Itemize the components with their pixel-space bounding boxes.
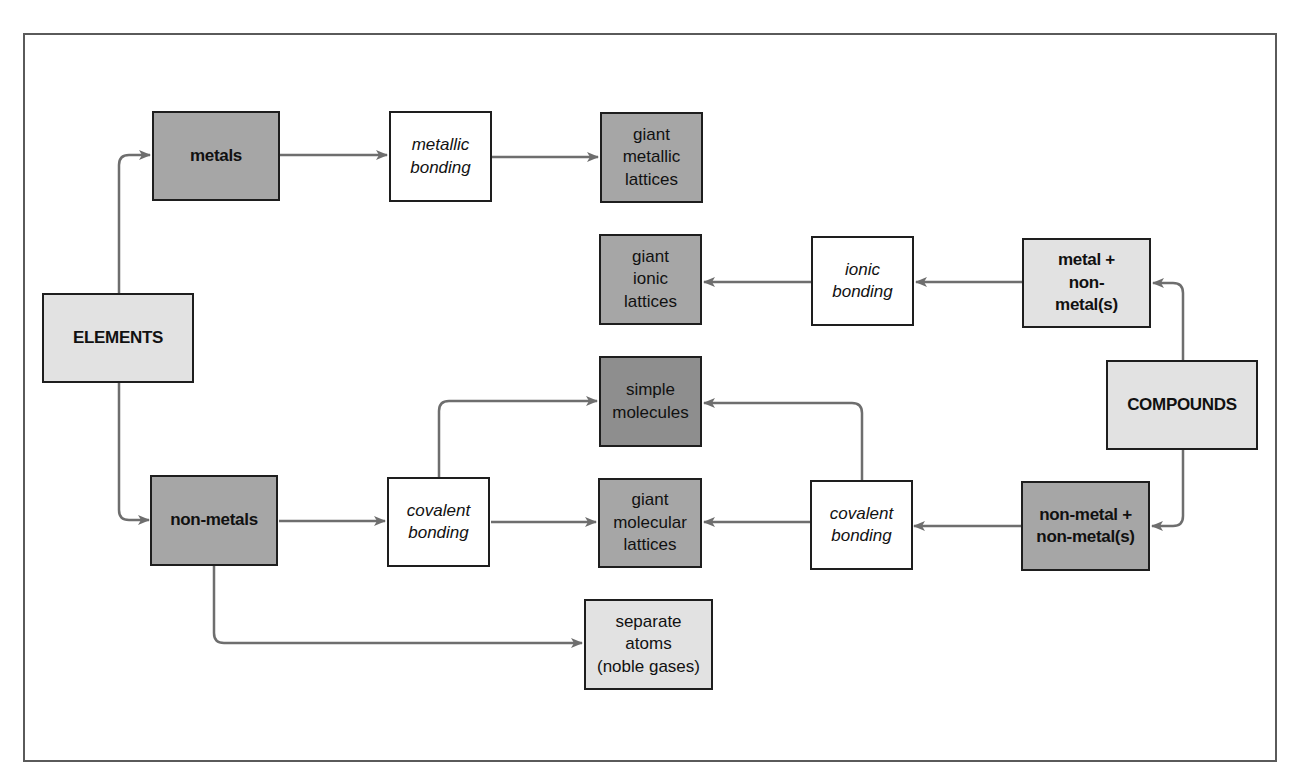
node-giant-molecular-lattices: giant molecular lattices bbox=[598, 478, 702, 568]
node-metal-non-metal: metal + non- metal(s) bbox=[1022, 238, 1151, 328]
arrow-elements-to-non-metals bbox=[119, 382, 149, 520]
arrow-compounds-to-nonmetal-nonmetal bbox=[1152, 450, 1183, 526]
node-metals: metals bbox=[152, 111, 280, 201]
arrow-non-metals-to-separate-atoms bbox=[214, 566, 582, 643]
node-metallic-bonding: metallic bonding bbox=[389, 111, 492, 202]
node-compounds: COMPOUNDS bbox=[1106, 360, 1258, 450]
arrow-covalent-right-to-simple-molecules bbox=[704, 403, 862, 480]
arrow-elements-to-metals bbox=[119, 155, 150, 293]
node-giant-ionic-lattices: giant ionic lattices bbox=[599, 234, 702, 325]
node-non-metals: non-metals bbox=[150, 475, 278, 566]
node-covalent-bonding-right: covalent bonding bbox=[810, 480, 913, 570]
node-non-metal-non-metal: non-metal + non-metal(s) bbox=[1021, 481, 1150, 571]
arrow-compounds-to-metal-nonmetal bbox=[1153, 283, 1183, 360]
node-simple-molecules: simple molecules bbox=[599, 356, 702, 447]
node-elements: ELEMENTS bbox=[42, 293, 194, 383]
arrow-covalent-left-to-simple-molecules bbox=[439, 401, 597, 477]
node-ionic-bonding: ionic bonding bbox=[811, 236, 914, 326]
node-separate-atoms: separate atoms (noble gases) bbox=[584, 599, 713, 690]
node-giant-metallic-lattices: giant metallic lattices bbox=[600, 112, 703, 203]
node-covalent-bonding-left: covalent bonding bbox=[387, 477, 490, 567]
